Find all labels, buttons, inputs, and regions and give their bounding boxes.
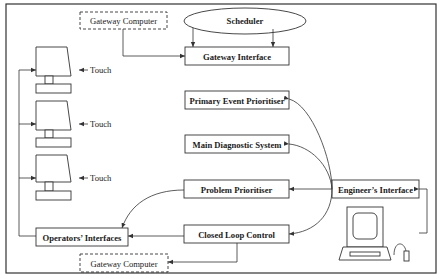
svg-text:Touch: Touch — [90, 173, 112, 183]
touch-screen-terminal-icon — [36, 155, 71, 200]
gateway-computer-bottom-node: Gateway Computer — [80, 254, 168, 272]
edge-closedloop-to-gateway — [168, 243, 237, 262]
main-diagnostic-system-node: Main Diagnostic System — [185, 135, 289, 153]
closed-loop-control-node: Closed Loop Control — [184, 225, 289, 243]
scheduler-node: Scheduler — [184, 8, 306, 34]
touch-label-3: Touch — [79, 173, 112, 183]
edge-gateway-computer-interface — [123, 29, 185, 56]
engineer-workstation-icon — [339, 207, 409, 261]
gateway-computer-top-node: Gateway Computer — [80, 12, 167, 29]
edge-workstation-to-engineer — [419, 189, 427, 233]
edge-engineer-diagnostic — [289, 144, 332, 189]
operators-interfaces-label: Operators’ Interfaces — [43, 233, 122, 243]
closed-loop-control-label: Closed Loop Control — [198, 230, 275, 240]
system-architecture-diagram: Gateway Computer Scheduler Gateway Inter… — [0, 0, 440, 279]
gateway-interface-label: Gateway Interface — [203, 52, 271, 62]
gateway-computer-top-label: Gateway Computer — [90, 16, 157, 26]
svg-text:Touch: Touch — [90, 65, 112, 75]
edge-problem-to-operators — [122, 190, 184, 228]
problem-prioritiser-label: Problem Prioritiser — [201, 185, 273, 195]
gateway-computer-bottom-label: Gateway Computer — [90, 259, 157, 269]
scheduler-label: Scheduler — [227, 16, 264, 26]
engineers-interface-node: Engineer’s Interface — [332, 180, 419, 198]
primary-event-prioritiser-node: Primary Event Prioritiser — [185, 91, 289, 109]
touch-screen-terminal-icon — [36, 101, 71, 147]
primary-event-prioritiser-label: Primary Event Prioritiser — [190, 96, 285, 106]
main-diagnostic-system-label: Main Diagnostic System — [193, 140, 283, 150]
touch-label-1: Touch — [79, 65, 112, 75]
edge-engineer-closed-loop — [289, 189, 332, 234]
edge-operators-bus — [19, 70, 36, 236]
edge-engineer-primary-event — [289, 99, 332, 189]
engineers-interface-label: Engineer’s Interface — [338, 185, 413, 195]
svg-text:Touch: Touch — [90, 119, 112, 129]
gateway-interface-node: Gateway Interface — [185, 47, 289, 65]
operators-interfaces-node: Operators’ Interfaces — [36, 228, 128, 246]
touch-screen-terminal-icon — [36, 47, 71, 93]
touch-label-2: Touch — [79, 119, 112, 129]
problem-prioritiser-node: Problem Prioritiser — [184, 180, 289, 198]
